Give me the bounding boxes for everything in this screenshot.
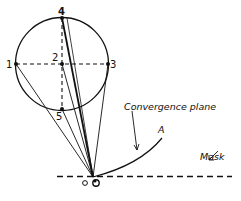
label-3: 3 (110, 59, 116, 70)
point-2 (60, 62, 64, 66)
curve-label-a: A (157, 124, 165, 135)
ray-4 (62, 18, 93, 177)
mask-label: Mask (200, 151, 225, 162)
point-1 (14, 62, 18, 66)
origin-marker (83, 181, 88, 186)
label-1: 1 (6, 59, 12, 70)
label-2: 2 (52, 52, 58, 63)
convergence-curve (93, 138, 162, 177)
label-5: 5 (56, 111, 62, 122)
label-4: 4 (58, 6, 65, 17)
convergence-diagram: 1 2 3 4 5 Convergence plane A Mask (0, 0, 241, 201)
convergence-plane-label: Convergence plane (124, 101, 216, 112)
ray-3 (93, 64, 108, 177)
convergence-arrow (132, 111, 137, 150)
observer-pupil-icon (94, 180, 97, 183)
